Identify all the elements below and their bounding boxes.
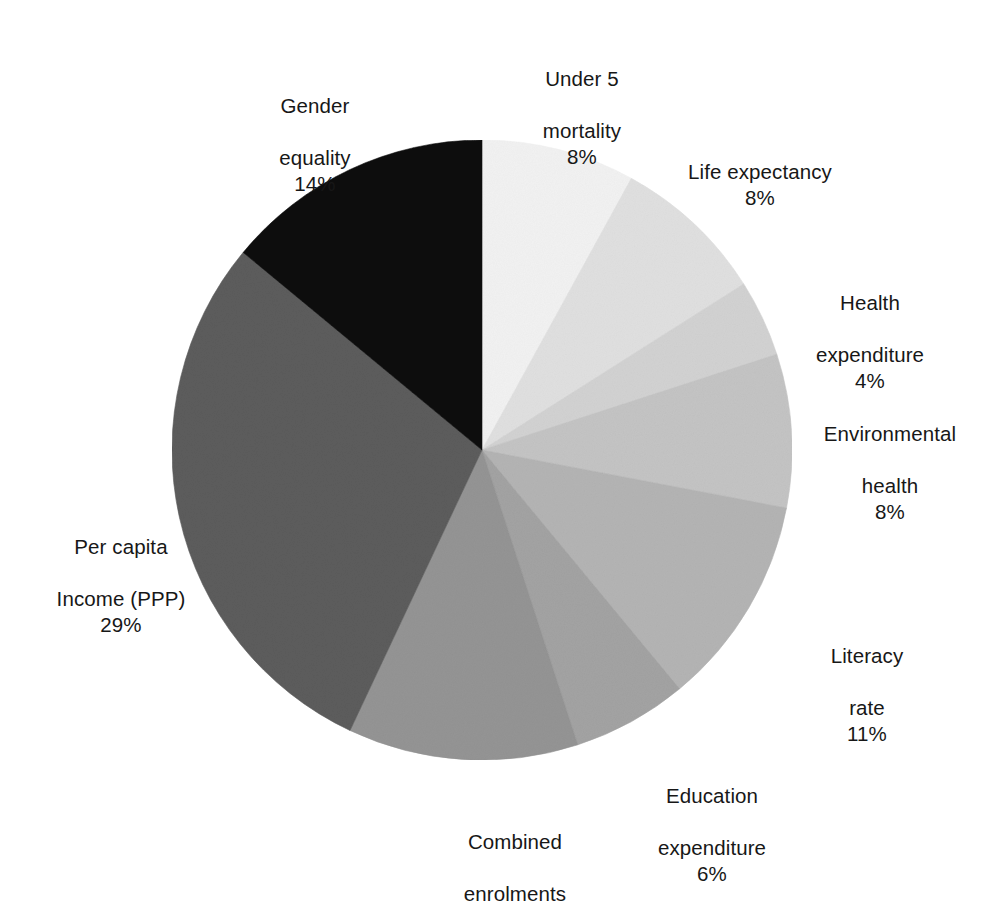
slice-label-line1: Gender xyxy=(281,94,350,117)
slice-label-literacy-rate: Literacy rate 11% xyxy=(772,617,962,773)
slice-label-gender-equality: Gender equality 14% xyxy=(220,67,410,223)
slice-label-environmental-health: Environmental health 8% xyxy=(790,395,984,551)
slice-label-line2: health xyxy=(862,474,918,497)
slice-value-per-capita-income: 29% xyxy=(6,612,236,638)
slice-label-line2: expenditure xyxy=(658,836,766,859)
slice-label-line2: Income (PPP) xyxy=(57,587,186,610)
slice-label-line2: expenditure xyxy=(816,343,924,366)
slice-label-line1: Health xyxy=(840,291,900,314)
slice-label-line2: enrolments xyxy=(464,882,566,905)
slice-value-environmental-health: 8% xyxy=(790,499,984,525)
slice-label-education-expenditure: Education expenditure 6% xyxy=(612,757,812,905)
slice-label-line1: Per capita xyxy=(74,535,167,558)
slice-label-line1: Education xyxy=(666,784,758,807)
slice-value-health-expenditure: 4% xyxy=(770,368,970,394)
slice-value-education-expenditure: 6% xyxy=(612,861,812,887)
slice-label-line2: equality xyxy=(279,146,350,169)
slice-value-literacy-rate: 11% xyxy=(772,721,962,747)
slice-label-line1: Literacy xyxy=(831,644,904,667)
slice-label-per-capita-income: Per capita Income (PPP) 29% xyxy=(6,508,236,664)
slice-label-line1: Environmental xyxy=(824,422,956,445)
slice-label-line2: rate xyxy=(849,696,885,719)
slice-label-line1: Under 5 xyxy=(545,67,619,90)
slice-value-life-expectancy: 8% xyxy=(640,185,880,211)
slice-label-line2: mortality xyxy=(543,119,621,142)
slice-label-life-expectancy: Life expectancy 8% xyxy=(640,133,880,237)
slice-label-combined-enrolments: Combined enrolments xyxy=(400,803,630,905)
slice-label-line1: Combined xyxy=(468,830,562,853)
slice-label-line1: Life expectancy xyxy=(688,160,832,183)
slice-value-gender-equality: 14% xyxy=(220,171,410,197)
